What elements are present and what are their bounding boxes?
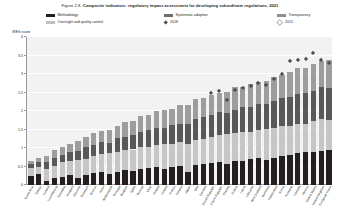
bar-segment-methodology <box>326 150 331 185</box>
bar-segment-systematic-adoption <box>60 155 65 162</box>
bar-segment-oversight-and-quality-control <box>303 124 308 152</box>
legend-item-y2015[interactable]: 2015 <box>277 19 340 26</box>
legend-item-over[interactable]: Oversight and quality control <box>46 19 164 26</box>
bar-11[interactable] <box>115 37 120 185</box>
bar-segment-systematic-adoption <box>67 152 72 162</box>
bar-segment-oversight-and-quality-control <box>319 119 324 151</box>
bar-16[interactable] <box>154 37 159 185</box>
legend-item-syst[interactable]: Systematic adoption <box>164 12 277 19</box>
bar-segment-transparency <box>107 130 112 143</box>
bar-segment-systematic-adoption <box>201 117 206 139</box>
bar-24[interactable] <box>217 37 222 185</box>
bar-segment-systematic-adoption <box>256 104 261 130</box>
bar-segment-systematic-adoption <box>319 87 324 119</box>
bar-segment-systematic-adoption <box>169 125 174 144</box>
y-tick-label: 3 <box>21 72 23 76</box>
bar-27[interactable] <box>240 37 245 185</box>
bar-segment-transparency <box>177 105 182 124</box>
bar-segment-transparency <box>256 82 261 104</box>
bar-segment-systematic-adoption <box>209 115 214 136</box>
bar-18[interactable] <box>169 37 174 185</box>
bar-segment-oversight-and-quality-control <box>36 167 41 174</box>
bar-9[interactable] <box>99 37 104 185</box>
bar-segment-transparency <box>99 131 104 142</box>
bar-segment-methodology <box>122 170 127 185</box>
bar-segment-transparency <box>75 141 80 151</box>
bar-segment-systematic-adoption <box>83 147 88 160</box>
bar-segment-methodology <box>162 169 167 185</box>
bar-segment-oversight-and-quality-control <box>169 144 174 167</box>
bar-segment-oversight-and-quality-control <box>107 153 112 174</box>
bar-segment-transparency <box>287 72 292 97</box>
bar-26[interactable] <box>232 37 237 185</box>
bar-segment-transparency <box>279 75 284 98</box>
legend-item-tran[interactable]: Transparency <box>277 12 340 19</box>
figure-title-text: Composite indicators: regulatory impact … <box>83 3 279 8</box>
bar-segment-systematic-adoption <box>224 113 229 134</box>
x-tick-label: Greece <box>89 185 98 196</box>
bar-segment-methodology <box>177 166 182 185</box>
x-tick-label: Japan <box>184 185 192 194</box>
y-tick-label: 3.5 <box>18 54 23 58</box>
bar-28[interactable] <box>248 37 253 185</box>
bar-30[interactable] <box>264 37 269 185</box>
y-tick-label: 0.5 <box>18 165 23 169</box>
legend-item-y2018[interactable]: 2018 <box>164 19 277 26</box>
bar-segment-oversight-and-quality-control <box>256 130 261 158</box>
bar-segment-systematic-adoption <box>193 119 198 140</box>
x-tick-label: Türkiye <box>34 185 43 196</box>
x-tick-label: Italy <box>193 185 199 192</box>
bar-29[interactable] <box>256 37 261 185</box>
bar-21[interactable] <box>193 37 198 185</box>
bar-segment-oversight-and-quality-control <box>217 135 222 162</box>
bar-38[interactable] <box>326 37 331 185</box>
bar-1[interactable] <box>36 37 41 185</box>
bar-3[interactable] <box>52 37 57 185</box>
bar-36[interactable] <box>311 37 316 185</box>
bar-segment-transparency <box>162 110 167 128</box>
bar-12[interactable] <box>122 37 127 185</box>
bar-13[interactable] <box>130 37 135 185</box>
bar-15[interactable] <box>146 37 151 185</box>
bar-2[interactable] <box>44 37 49 185</box>
bar-20[interactable] <box>185 37 190 185</box>
bar-4[interactable] <box>60 37 65 185</box>
legend-swatch-icon <box>46 14 55 17</box>
bar-segment-oversight-and-quality-control <box>99 154 104 173</box>
bar-segment-methodology <box>224 164 229 185</box>
bar-segment-oversight-and-quality-control <box>67 161 72 174</box>
bar-segment-oversight-and-quality-control <box>295 124 300 154</box>
bar-14[interactable] <box>138 37 143 185</box>
bar-6[interactable] <box>75 37 80 185</box>
bar-31[interactable] <box>271 37 276 185</box>
bar-segment-oversight-and-quality-control <box>44 169 49 180</box>
bar-segment-oversight-and-quality-control <box>83 159 88 175</box>
bar-23[interactable] <box>209 37 214 185</box>
bar-10[interactable] <box>107 37 112 185</box>
bar-segment-methodology <box>232 161 237 185</box>
plot-area <box>26 37 332 185</box>
bar-5[interactable] <box>67 37 72 185</box>
legend-item-meth[interactable]: Methodology <box>46 12 164 19</box>
y-axis-title: iREG score <box>12 30 30 34</box>
bar-32[interactable] <box>279 37 284 185</box>
bar-17[interactable] <box>162 37 167 185</box>
bar-8[interactable] <box>91 37 96 185</box>
bar-segment-oversight-and-quality-control <box>91 156 96 173</box>
bar-25[interactable] <box>224 37 229 185</box>
bar-19[interactable] <box>177 37 182 185</box>
bar-0[interactable] <box>28 37 33 185</box>
bar-segment-methodology <box>99 172 104 185</box>
bar-segment-systematic-adoption <box>177 124 182 143</box>
bar-segment-systematic-adoption <box>52 158 57 166</box>
bar-segment-oversight-and-quality-control <box>122 150 127 170</box>
bar-segment-methodology <box>264 160 269 185</box>
bar-segment-methodology <box>201 164 206 185</box>
bar-segment-oversight-and-quality-control <box>185 144 190 171</box>
bar-segment-transparency <box>154 111 159 128</box>
bar-7[interactable] <box>83 37 88 185</box>
x-tick-label: Australia <box>284 185 293 197</box>
bar-segment-methodology <box>217 162 222 185</box>
bar-22[interactable] <box>201 37 206 185</box>
legend-item-label: Methodology <box>58 12 79 19</box>
